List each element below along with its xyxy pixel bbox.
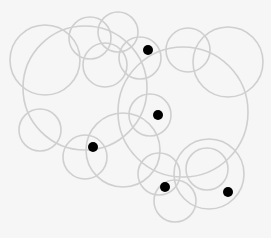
black-dot bbox=[143, 45, 153, 55]
black-dot bbox=[160, 182, 170, 192]
black-dot bbox=[223, 187, 233, 197]
circle-diagram bbox=[0, 0, 271, 238]
diagram-svg bbox=[0, 0, 271, 238]
black-dot bbox=[88, 142, 98, 152]
black-dot bbox=[153, 110, 163, 120]
